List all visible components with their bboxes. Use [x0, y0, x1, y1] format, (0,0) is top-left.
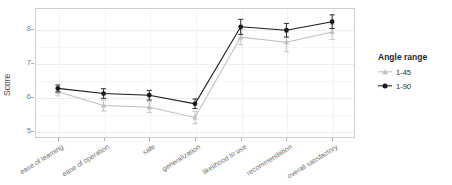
y-axis-tick-mark	[31, 63, 34, 64]
x-axis-tick-label: generalization	[161, 143, 202, 172]
y-axis-tick-mark	[31, 29, 34, 30]
x-axis-tick-label: overall satisfactory	[286, 143, 339, 180]
y-axis-tick-mark	[31, 131, 34, 132]
x-axis-tick-mark	[149, 138, 150, 141]
legend-item-label: 1-45	[396, 68, 411, 77]
legend-item-1-90[interactable]: 1-90	[378, 81, 427, 91]
x-axis-tick-label: ease of learning	[18, 143, 64, 175]
circle-icon	[383, 84, 388, 89]
x-axis-tick-label: recommendation	[245, 143, 293, 177]
chart-root: Score 5678 ease of learningease of opera…	[0, 0, 452, 185]
x-axis-tick-label: ease of operation	[61, 143, 111, 178]
y-axis-tick-mark	[31, 97, 34, 98]
x-axis-tick-label: safe	[141, 143, 156, 156]
triangle-icon	[382, 69, 388, 74]
x-axis-tick-mark	[241, 138, 242, 141]
x-axis-tick-mark	[332, 138, 333, 141]
x-axis-tick-label: likelihood to use	[201, 143, 247, 176]
x-axis-tick-mark	[286, 138, 287, 141]
x-axis-tick-mark	[58, 138, 59, 141]
legend-key	[378, 67, 392, 77]
x-axis-tick-mark	[195, 138, 196, 141]
x-axis-tick-mark	[104, 138, 105, 141]
legend: Angle range 1-451-90	[378, 52, 427, 95]
legend-item-label: 1-90	[396, 82, 411, 91]
legend-items: 1-451-90	[378, 67, 427, 91]
legend-key	[378, 81, 392, 91]
legend-title: Angle range	[378, 52, 427, 62]
legend-item-1-45[interactable]: 1-45	[378, 67, 427, 77]
